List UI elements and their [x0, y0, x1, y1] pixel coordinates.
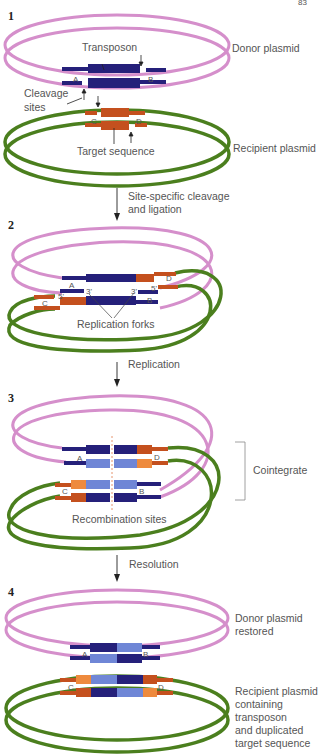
recipient-final-line3: transposon: [235, 711, 287, 723]
cointegrate-bracket: [235, 442, 245, 500]
recipient-final-segments: [60, 675, 173, 697]
step-2: 2 Replication forks: [8, 218, 221, 351]
step-2-number: 2: [8, 218, 14, 232]
transition-2-label: Replication: [128, 358, 180, 370]
cleavage-label-line2: sites: [24, 101, 46, 113]
donor-restored-line2: restored: [235, 625, 274, 637]
transition-3-label: Resolution: [129, 558, 179, 570]
step-4: 4: [6, 585, 318, 752]
recipient-plasmid-4: [6, 676, 228, 752]
recipient-plasmid-label: Recipient plasmid: [233, 142, 316, 154]
transition-1: Site-specific cleavage and ligation: [114, 188, 230, 221]
site-a-4: A: [82, 650, 88, 659]
recipient-strand: [9, 271, 221, 351]
donor-restored-line1: Donor plasmid: [235, 612, 303, 624]
site-d-2: D: [166, 274, 172, 283]
site-a-2: A: [69, 281, 75, 290]
site-a: A: [73, 75, 79, 84]
transposon-label: Transposon: [82, 41, 137, 53]
replication-forks-label: Replication forks: [77, 318, 155, 330]
label-3prime-right: 3': [131, 287, 137, 296]
transition-3: Resolution: [114, 555, 179, 582]
cointegrate-segments: [55, 445, 168, 502]
site-b: B: [148, 75, 153, 84]
site-c-4: C: [68, 683, 74, 692]
recipient-final-line1: Recipient plasmid: [235, 685, 318, 697]
cleavage-label-line1: Cleavage: [24, 87, 69, 99]
recipient-final-line4: and duplicated: [235, 724, 303, 736]
step-1-number: 1: [8, 9, 14, 23]
recipient-final-line2: containing: [235, 698, 283, 710]
site-c-3: C: [62, 487, 68, 496]
label-5prime-left: 5': [58, 292, 64, 301]
recipient-final-line5: target sequence: [235, 737, 310, 749]
label-3prime-left: 3': [86, 287, 92, 296]
transition-1-line2: and ligation: [128, 203, 182, 215]
recombination-sites-label: Recombination sites: [72, 513, 167, 525]
site-b-2: B: [147, 296, 152, 305]
step-3: 3: [8, 391, 307, 549]
target-sequence-label: Target sequence: [77, 145, 155, 157]
site-b-3: B: [139, 487, 144, 496]
step-1: 1: [5, 9, 316, 186]
donor-plasmid-label: Donor plasmid: [232, 42, 300, 54]
transition-1-line1: Site-specific cleavage: [128, 190, 230, 202]
site-c-2: C: [42, 299, 48, 308]
transition-2: Replication: [114, 358, 180, 387]
site-c: C: [91, 117, 97, 126]
label-5prime-right: 5': [151, 284, 157, 293]
cointegrate-label: Cointegrate: [253, 464, 307, 476]
site-d: D: [136, 117, 142, 126]
site-d-3: D: [154, 453, 160, 462]
step-3-number: 3: [8, 391, 14, 405]
page-number: 83: [298, 0, 307, 7]
site-d-4: D: [158, 683, 164, 692]
site-a-3: A: [77, 454, 83, 463]
transposition-diagram: 83 1: [0, 0, 321, 754]
site-b-4: B: [143, 650, 148, 659]
step-4-number: 4: [8, 585, 14, 599]
recipient-strand-3: [9, 447, 219, 548]
